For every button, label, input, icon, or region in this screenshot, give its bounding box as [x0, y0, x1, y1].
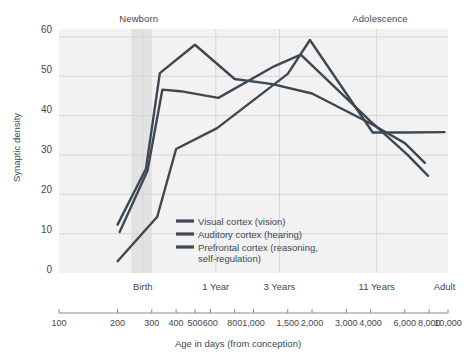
- y-tick-50: 50: [26, 64, 52, 75]
- x-tick-label-3000: 3,000: [335, 318, 358, 328]
- plot-area: [0, 0, 476, 361]
- x-tick-label-300: 300: [144, 318, 159, 328]
- legend-label-auditory: Auditory cortex (hearing): [198, 229, 302, 240]
- legend-label-prefrontal: Prefrontal cortex (reasoning, self-regul…: [198, 242, 318, 264]
- y-tick-30: 30: [26, 144, 52, 155]
- chart-figure: Newborn Adolescence Synaptic density 60 …: [0, 0, 476, 361]
- x-tick-label-2000: 2,000: [301, 318, 324, 328]
- y-tick-20: 20: [26, 184, 52, 195]
- y-tick-60: 60: [26, 24, 52, 35]
- era-label-newborn: Newborn: [119, 13, 158, 24]
- x-tick-label-100: 100: [51, 318, 66, 328]
- x-tick-label-4000: 4,000: [359, 318, 382, 328]
- legend-label-visual: Visual cortex (vision): [198, 216, 285, 227]
- y-tick-0: 0: [26, 264, 52, 275]
- x-axis-ruler: [59, 309, 448, 313]
- era-label-adolescence: Adolescence: [352, 13, 408, 24]
- milestone-birth: Birth: [103, 281, 183, 292]
- x-tick-label-400: 400: [169, 318, 184, 328]
- milestone-adult: Adult: [405, 281, 476, 292]
- x-tick-label-200: 200: [110, 318, 125, 328]
- x-tick-label-1000: 1,000: [242, 318, 265, 328]
- x-tick-label-1500: 1,500: [276, 318, 299, 328]
- x-tick-label-6000: 6,000: [394, 318, 417, 328]
- y-tick-10: 10: [26, 224, 52, 235]
- x-tick-label-800: 800: [227, 318, 242, 328]
- x-axis-title: Age in days (from conception): [0, 338, 476, 349]
- x-tick-label-600: 600: [203, 318, 218, 328]
- y-tick-40: 40: [26, 104, 52, 115]
- milestone-3-years: 3 Years: [239, 281, 319, 292]
- x-tick-label-500: 500: [187, 318, 202, 328]
- y-axis-title: Synaptic density: [11, 88, 22, 208]
- x-tick-label-10000: 10,000: [434, 318, 462, 328]
